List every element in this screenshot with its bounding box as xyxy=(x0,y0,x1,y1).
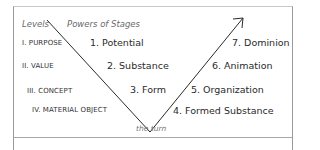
level-value: II. VALUE xyxy=(22,63,54,70)
turn-label: the turn xyxy=(136,125,166,133)
stage-substance: 2. Substance xyxy=(107,61,169,71)
stage-formed-substance: 4. Formed Substance xyxy=(173,106,274,116)
level-purpose: I. PURPOSE xyxy=(22,40,62,47)
stage-form: 3. Form xyxy=(130,85,166,95)
stage-dominion: 7. Dominion xyxy=(232,38,290,48)
powers-heading: Powers of Stages xyxy=(67,20,140,29)
stage-potential: 1. Potential xyxy=(90,38,144,48)
stage-organization: 5. Organization xyxy=(191,85,264,95)
level-concept: III. CONCEPT xyxy=(27,88,72,95)
level-material-object: IV. MATERIAL OBJECT xyxy=(32,107,107,114)
stage-animation: 6. Animation xyxy=(212,61,273,71)
levels-heading: Levels xyxy=(22,20,49,29)
